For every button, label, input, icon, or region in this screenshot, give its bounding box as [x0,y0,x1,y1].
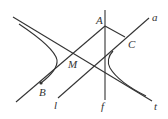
segment-ac [105,26,125,37]
label-line-f: f [101,100,106,112]
label-c-point: C [128,38,136,50]
hyperbola-right-branch [108,51,146,96]
label-m-point: M [67,58,78,70]
hyperbola-diagram: A C M B a l f t [0,0,168,119]
label-b-point: B [39,86,46,98]
hyperbola-left-branch [19,24,57,83]
line-t [13,17,152,101]
label-line-t: t [154,100,158,112]
label-a-point: A [95,14,103,26]
label-line-l: l [54,99,57,111]
label-line-a: a [152,11,158,23]
point-b-dot [39,81,42,84]
